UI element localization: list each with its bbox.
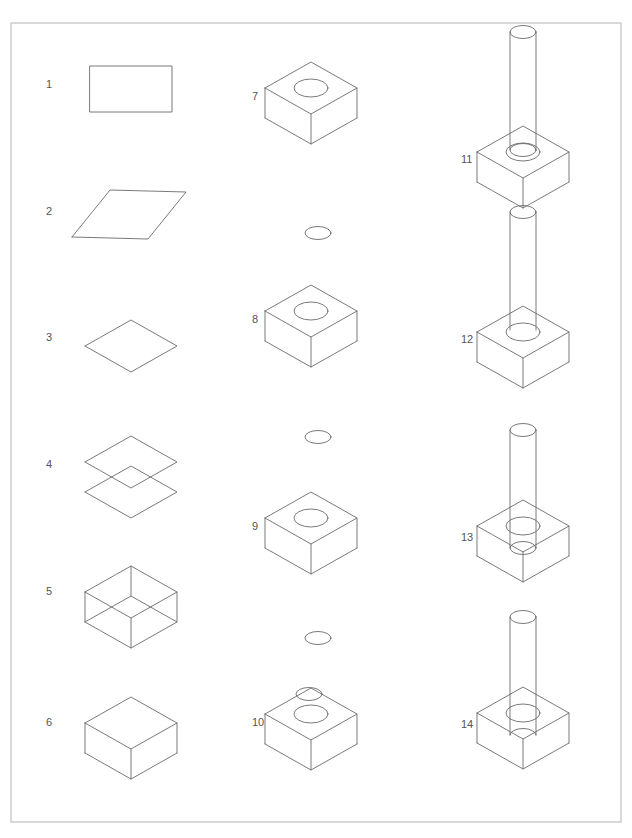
cylinder-top-ellipse [510, 611, 536, 624]
top-face [477, 126, 569, 178]
construction-sequence-diagram: 1234567891011121314 [0, 0, 632, 838]
staged-circle-2 [305, 431, 331, 444]
step-label-1: 1 [46, 78, 52, 90]
step-label-6: 6 [46, 716, 52, 728]
bottom-face [85, 466, 177, 518]
step-1 [90, 66, 172, 112]
cylinder-top-ellipse [510, 424, 536, 437]
step-label-9: 9 [252, 520, 258, 532]
diagram-border [11, 23, 621, 822]
step-label-12: 12 [461, 333, 473, 345]
top-face [265, 688, 357, 740]
step-label-10: 10 [252, 716, 264, 728]
step-label-13: 13 [461, 531, 473, 543]
step-7 [265, 62, 357, 144]
step-4 [85, 436, 177, 518]
step-label-2: 2 [46, 205, 52, 217]
step-label-8: 8 [252, 313, 258, 325]
top-face [85, 436, 177, 488]
step-11 [477, 26, 569, 209]
top-face [265, 62, 357, 114]
hole-ellipse [294, 705, 328, 723]
hole-ellipse [506, 704, 540, 722]
step-label-14: 14 [461, 718, 473, 730]
step-labels-layer: 1234567891011121314 [46, 78, 473, 730]
skewed-parallelogram [72, 190, 186, 239]
step-label-4: 4 [46, 458, 52, 470]
hole-ellipse [294, 79, 328, 97]
staged-circle-1 [305, 227, 331, 240]
top-face [265, 492, 357, 544]
figure-root: 1234567891011121314 [0, 0, 632, 838]
step-13 [477, 424, 569, 583]
top-face [477, 500, 569, 552]
step-3 [85, 320, 177, 372]
step-12 [477, 206, 569, 389]
step-10 [265, 688, 357, 771]
top-face [477, 687, 569, 739]
top-face [265, 285, 357, 337]
cylinder-base-ellipse [510, 144, 536, 157]
step-9 [265, 492, 357, 574]
steps-layer [72, 26, 569, 780]
staged-circle-3 [305, 632, 331, 645]
step-5 [85, 566, 177, 648]
step-14 [477, 611, 569, 770]
isometric-face [85, 320, 177, 372]
step-6 [85, 697, 177, 779]
step-8 [265, 285, 357, 367]
hole-ellipse [294, 302, 328, 320]
cylinder-top-ellipse [510, 26, 536, 39]
top-face [477, 306, 569, 358]
hole-ellipse [294, 509, 328, 527]
step-2 [72, 190, 186, 239]
step-label-3: 3 [46, 331, 52, 343]
step-label-7: 7 [252, 90, 258, 102]
step-label-5: 5 [46, 585, 52, 597]
hole-ellipse [506, 323, 540, 341]
hole-ellipse [506, 517, 540, 535]
top-face [85, 697, 177, 749]
rectangle-profile [90, 66, 172, 112]
step-label-11: 11 [461, 153, 472, 165]
